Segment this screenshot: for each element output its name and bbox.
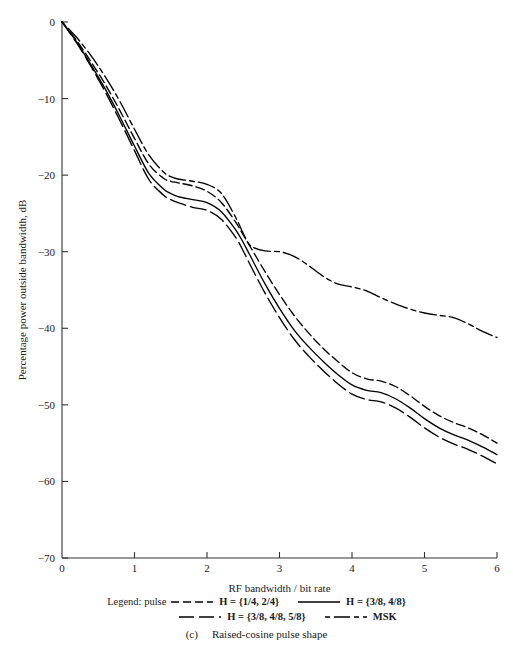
legend-entry-1: H = {3/8, 4/8} bbox=[297, 595, 406, 608]
legend-entry-0: H = {1/4, 2/4} bbox=[170, 595, 279, 608]
y-axis-tick-label: −10 bbox=[38, 93, 56, 105]
caption-text: Raised-cosine pulse shape bbox=[212, 628, 327, 640]
y-axis-tick-label: −70 bbox=[38, 552, 56, 564]
tick-labels-layer: 0−10−20−30−40−50−60−700123456 bbox=[38, 16, 500, 574]
y-axis-title: Percentage power outside bandwidth, dB bbox=[16, 200, 28, 381]
x-axis-tick-label: 1 bbox=[132, 562, 138, 574]
data-curve-0 bbox=[62, 22, 497, 443]
legend-row-2: H = {3/8, 4/8, 5/8} MSK bbox=[0, 609, 513, 624]
legend-label-1: H = {3/8, 4/8} bbox=[346, 595, 406, 608]
chart-plot-area: 0−10−20−30−40−50−60−700123456 RF bandwid… bbox=[0, 0, 513, 653]
legend-swatch-solid-icon bbox=[297, 597, 341, 607]
x-axis-tick-label: 4 bbox=[349, 562, 355, 574]
data-curve-2 bbox=[62, 22, 497, 464]
x-axis-tick-label: 5 bbox=[422, 562, 428, 574]
axis-titles-layer: RF bandwidth / bit ratePercentage power … bbox=[16, 200, 331, 594]
data-curve-3 bbox=[62, 22, 497, 337]
y-axis-tick-label: −60 bbox=[38, 475, 56, 487]
data-curves-layer bbox=[62, 22, 497, 464]
y-axis-tick-label: −30 bbox=[38, 246, 56, 258]
axes-layer bbox=[62, 22, 497, 558]
chart-legend: Legend: pulse H = {1/4, 2/4} H = {3/8, 4… bbox=[0, 594, 513, 624]
figure-container: 0−10−20−30−40−50−60−700123456 RF bandwid… bbox=[0, 0, 513, 653]
y-axis-tick-label: −20 bbox=[38, 169, 56, 181]
legend-swatch-dash-dot-icon bbox=[324, 612, 368, 622]
legend-row-1: Legend: pulse H = {1/4, 2/4} H = {3/8, 4… bbox=[0, 594, 513, 609]
legend-entry-3: MSK bbox=[324, 610, 397, 623]
x-axis-tick-label: 3 bbox=[277, 562, 283, 574]
x-axis-tick-label: 2 bbox=[204, 562, 210, 574]
figure-caption: (c)Raised-cosine pulse shape bbox=[0, 628, 513, 640]
x-axis-tick-label: 6 bbox=[494, 562, 500, 574]
legend-swatch-dashed-long-icon bbox=[178, 612, 222, 622]
data-curve-1 bbox=[62, 22, 497, 455]
y-axis-tick-label: −50 bbox=[38, 399, 56, 411]
legend-label-3: MSK bbox=[373, 610, 397, 623]
caption-letter: (c) bbox=[186, 628, 198, 640]
x-axis-title: RF bandwidth / bit rate bbox=[228, 582, 330, 594]
y-axis-tick-label: −40 bbox=[38, 322, 56, 334]
legend-title: Legend: pulse bbox=[107, 595, 166, 608]
x-axis-tick-label: 0 bbox=[59, 562, 65, 574]
y-axis-tick-label: 0 bbox=[50, 16, 56, 28]
legend-entry-2: H = {3/8, 4/8, 5/8} bbox=[178, 610, 305, 623]
ticks-layer bbox=[62, 22, 497, 558]
legend-label-2: H = {3/8, 4/8, 5/8} bbox=[227, 610, 305, 623]
legend-label-0: H = {1/4, 2/4} bbox=[219, 595, 279, 608]
legend-swatch-dashed-medium-icon bbox=[170, 597, 214, 607]
